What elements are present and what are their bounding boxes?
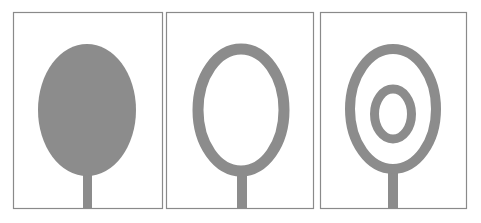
feed-line [388, 170, 398, 209]
panel-single-ring [167, 13, 314, 210]
panel-solid-ellipse [14, 13, 163, 210]
solid-ellipse-patch [38, 44, 136, 176]
antenna-geometries-figure [0, 0, 481, 223]
panel-double-ring [321, 13, 467, 210]
